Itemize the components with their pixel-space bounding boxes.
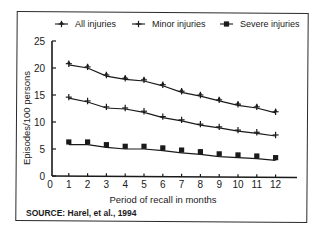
series-group [66, 60, 279, 160]
y-tick-label: 0 [39, 171, 45, 182]
plus-marker-icon [235, 127, 241, 133]
plus-marker-icon [216, 124, 222, 130]
axes: 05101520250123456789101112 [34, 36, 297, 191]
x-tick-label: 7 [179, 179, 185, 190]
plus-marker-icon [197, 121, 203, 127]
plus-marker-icon [254, 129, 260, 135]
source-note: SOURCE: Harel, et al., 1994 [26, 208, 137, 218]
square-marker-icon [123, 144, 128, 149]
asterisk-marker-icon [122, 75, 128, 81]
plus-marker-icon [179, 117, 185, 123]
legend-item-2: Minor injuries [132, 19, 206, 29]
series-all-injuries [66, 60, 279, 114]
series-minor-injuries [66, 94, 279, 138]
y-tick-label: 15 [34, 90, 46, 101]
x-tick-label: 8 [198, 179, 204, 190]
square-marker-icon [217, 151, 222, 156]
series-line [69, 145, 276, 161]
square-marker-icon [273, 155, 278, 160]
plus-marker-icon [103, 104, 109, 110]
asterisk-marker-icon [273, 109, 279, 115]
x-tick-label: 0 [47, 179, 53, 190]
series-line [69, 98, 276, 136]
plus-marker-icon [160, 113, 166, 119]
plus-marker-icon [122, 105, 128, 111]
x-tick-label: 9 [216, 179, 222, 190]
asterisk-marker-icon [66, 60, 72, 66]
asterisk-marker-icon [216, 97, 222, 103]
square-marker-icon [198, 149, 203, 154]
square-marker-icon [85, 139, 90, 144]
x-tick-label: 4 [122, 179, 128, 190]
x-tick-label: 12 [270, 179, 282, 190]
legend: All injuriesMinor injuriesSevere injurie… [55, 19, 300, 29]
series-severe-injuries [66, 139, 278, 160]
square-marker-icon [66, 139, 71, 144]
asterisk-marker-icon [179, 88, 185, 94]
x-tick-label: 3 [104, 179, 110, 190]
x-tick-label: 6 [160, 179, 166, 190]
legend-label: Severe injuries [240, 19, 300, 29]
line-chart: All injuriesMinor injuriesSevere injurie… [0, 0, 315, 235]
square-marker-icon [104, 142, 109, 147]
x-tick-label: 11 [252, 179, 263, 190]
x-axis-title: Period of recall in months [109, 194, 216, 205]
square-marker-icon [179, 147, 184, 152]
legend-item-3: Severe injuries [220, 19, 300, 29]
x-tick-label: 10 [232, 179, 244, 190]
asterisk-marker-icon [59, 21, 65, 27]
plus-marker-icon [66, 94, 72, 100]
square-marker-icon [141, 144, 146, 149]
plus-marker-icon [136, 21, 142, 27]
legend-label: All injuries [75, 19, 117, 29]
square-marker-icon [160, 145, 165, 150]
asterisk-marker-icon [235, 101, 241, 107]
square-marker-icon [224, 21, 229, 26]
y-tick-label: 25 [34, 36, 46, 47]
legend-item-1: All injuries [55, 19, 117, 29]
y-tick-label: 10 [34, 117, 46, 128]
asterisk-marker-icon [103, 72, 109, 78]
plus-marker-icon [273, 132, 279, 138]
x-tick-label: 1 [66, 179, 72, 190]
square-marker-icon [254, 153, 259, 158]
x-tick-label: 5 [141, 179, 147, 190]
y-tick-label: 20 [34, 63, 46, 74]
y-tick-label: 5 [39, 144, 45, 155]
x-axis-line [52, 176, 297, 178]
square-marker-icon [235, 152, 240, 157]
y-axis-title: Episodes/100 persons [21, 71, 32, 165]
legend-label: Minor injuries [152, 19, 206, 29]
x-tick-label: 2 [85, 179, 91, 190]
